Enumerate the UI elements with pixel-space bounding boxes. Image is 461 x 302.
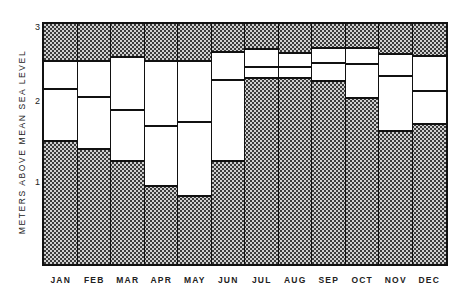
month-column-jun (212, 24, 246, 264)
range-band (245, 48, 278, 79)
y-tick-3: 3 (28, 22, 40, 32)
mean-line (78, 96, 111, 98)
month-column-apr (145, 24, 179, 264)
mean-line (413, 90, 447, 92)
range-band (44, 60, 77, 143)
x-tick-sep: SEP (312, 275, 346, 285)
x-tick-nov: NOV (379, 275, 413, 285)
month-column-dec (413, 24, 447, 264)
month-column-mar (111, 24, 145, 264)
month-column-nov (379, 24, 413, 264)
x-tick-may: MAY (178, 275, 212, 285)
range-band (312, 47, 345, 82)
y-axis-label: METERS ABOVE MEAN SEA LEVEL (17, 50, 27, 234)
y-tick-2: 2 (28, 96, 40, 106)
month-column-jul (245, 24, 279, 264)
plot-area (42, 22, 448, 266)
x-tick-oct: OCT (345, 275, 379, 285)
month-column-feb (78, 24, 112, 264)
x-tick-feb: FEB (77, 275, 111, 285)
month-column-oct (346, 24, 380, 264)
x-tick-apr: APR (144, 275, 178, 285)
mean-line (44, 88, 77, 90)
x-tick-jun: JUN (211, 275, 245, 285)
month-column-jan (44, 24, 78, 264)
range-band (178, 60, 211, 197)
month-column-may (178, 24, 212, 264)
mean-line (145, 125, 178, 127)
mean-line (346, 63, 379, 65)
range-band (346, 47, 379, 98)
x-tick-aug: AUG (278, 275, 312, 285)
range-band (78, 60, 111, 150)
x-tick-jul: JUL (245, 275, 279, 285)
mean-line (245, 66, 278, 68)
x-tick-mar: MAR (111, 275, 145, 285)
month-column-sep (312, 24, 346, 264)
mean-line (312, 62, 345, 64)
mean-line (279, 66, 312, 68)
sea-level-chart: METERS ABOVE MEAN SEA LEVEL 3 2 1 JANFEB… (0, 0, 461, 302)
range-band (145, 60, 178, 187)
mean-line (212, 79, 245, 81)
month-column-aug (279, 24, 313, 264)
mean-line (379, 75, 412, 77)
mean-line (111, 109, 144, 111)
range-band (379, 53, 412, 132)
x-tick-dec: DEC (412, 275, 446, 285)
x-tick-jan: JAN (44, 275, 78, 285)
mean-line (178, 121, 211, 123)
y-tick-1: 1 (28, 177, 40, 187)
range-band (212, 51, 245, 162)
